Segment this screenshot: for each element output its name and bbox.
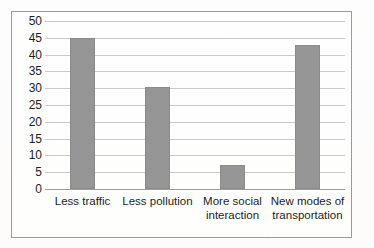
x-tick-label: Less pollution: [120, 194, 195, 208]
bar: [145, 87, 170, 189]
plot-area: [45, 21, 345, 189]
bar-series: [45, 21, 345, 189]
y-tick-label: 25: [14, 99, 42, 111]
x-axis-category-labels: Less trafficLess pollutionMore social in…: [45, 194, 345, 234]
y-tick-label: 0: [14, 183, 42, 195]
y-tick-label: 40: [14, 49, 42, 61]
y-tick-label: 5: [14, 166, 42, 178]
bar: [70, 38, 95, 189]
y-tick-label: 30: [14, 82, 42, 94]
y-tick-label: 45: [14, 32, 42, 44]
y-tick-label: 20: [14, 116, 42, 128]
y-axis-tick-labels: 50454035302520151050: [12, 21, 42, 189]
y-tick-label: 10: [14, 149, 42, 161]
x-tick-label: New modes of transportation: [270, 194, 345, 222]
y-tick-label: 35: [14, 65, 42, 77]
chart-frame: 50454035302520151050 Less trafficLess po…: [11, 11, 352, 238]
x-tick-label: Less traffic: [45, 194, 120, 208]
gridline-0: [45, 189, 345, 190]
y-tick-label: 15: [14, 133, 42, 145]
x-tick-label: More social interaction: [195, 194, 270, 222]
bar: [220, 165, 245, 189]
y-tick-label: 50: [14, 15, 42, 27]
bar: [295, 45, 320, 189]
